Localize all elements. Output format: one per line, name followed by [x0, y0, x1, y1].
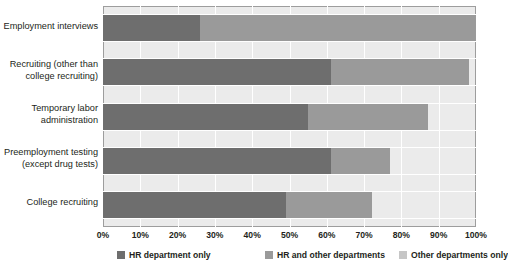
legend-label: HR and other departments [277, 250, 385, 260]
category-label-line: (except drug tests) [0, 159, 98, 171]
x-axis-ticks: 0%10%20%30%40%50%60%70%80%90%100% [103, 229, 476, 243]
category-label: Preemployment testing (except drug tests… [0, 147, 98, 170]
chart-legend: HR department onlyHR and other departmen… [103, 250, 493, 264]
category-label: College recruiting [0, 197, 98, 209]
bar-row [103, 59, 469, 85]
legend-item[interactable]: HR and other departments [265, 250, 385, 260]
bar-row [103, 192, 372, 218]
legend-item[interactable]: HR department only [117, 250, 211, 260]
category-label-line: administration [0, 115, 98, 127]
legend-item[interactable]: Other departments only [399, 250, 508, 260]
category-label-line: Preemployment testing [0, 147, 98, 159]
category-label-line: Employment interviews [0, 21, 98, 33]
bar-segment [308, 104, 427, 130]
category-axis-labels: Employment interviews Recruiting (other … [0, 6, 98, 227]
x-tick-label: 10% [132, 229, 149, 241]
x-tick-label: 90% [430, 229, 447, 241]
bar-segment [103, 192, 286, 218]
x-tick-label: 80% [393, 229, 410, 241]
bar-segment [331, 59, 469, 85]
bar-segment [103, 104, 308, 130]
x-tick-label: 50% [281, 229, 298, 241]
x-tick-label: 60% [318, 229, 335, 241]
bar-segment [103, 148, 331, 174]
plot-area [103, 6, 476, 227]
bar-segment [331, 148, 391, 174]
bars-layer [103, 6, 476, 227]
legend-label: HR department only [129, 250, 211, 260]
x-tick-label: 30% [206, 229, 223, 241]
x-tick-label: 100% [465, 229, 487, 241]
legend-label: Other departments only [411, 250, 508, 260]
category-label: Temporary labor administration [0, 103, 98, 126]
legend-swatch-icon [399, 251, 407, 259]
bar-segment [286, 192, 372, 218]
category-label-line: Recruiting (other than [0, 59, 98, 71]
category-label-line: Temporary labor [0, 103, 98, 115]
bar-row [103, 148, 390, 174]
category-label: Recruiting (other than college recruitin… [0, 59, 98, 82]
x-tick-label: 20% [169, 229, 186, 241]
bar-segment [200, 15, 476, 41]
category-label-line: college recruiting) [0, 71, 98, 83]
category-label: Employment interviews [0, 21, 98, 33]
legend-swatch-icon [117, 251, 125, 259]
x-tick-label: 40% [244, 229, 261, 241]
x-tick-label: 0% [97, 229, 109, 241]
legend-swatch-icon [265, 251, 273, 259]
bar-row [103, 15, 476, 41]
bar-row [103, 104, 428, 130]
category-label-line: College recruiting [0, 197, 98, 209]
bar-segment [103, 15, 200, 41]
x-tick-label: 70% [355, 229, 372, 241]
gridline-vertical [476, 6, 477, 227]
bar-segment [103, 59, 331, 85]
